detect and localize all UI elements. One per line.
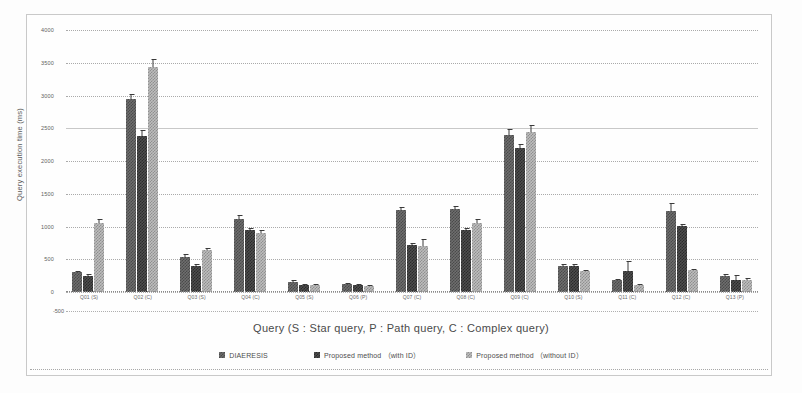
- bar-rect: [677, 226, 687, 292]
- bar-2: [731, 30, 741, 292]
- bar-rect: [504, 135, 514, 292]
- bar-rect: [558, 266, 568, 292]
- gridline-0: [66, 292, 758, 293]
- bar-2: [353, 30, 363, 292]
- legend-label: DIAERESIS: [229, 352, 268, 359]
- bar-group: [288, 30, 320, 292]
- error-bar: [423, 239, 424, 245]
- bar-rect: [720, 276, 730, 292]
- bar-1: [126, 30, 136, 292]
- bar-rect: [137, 136, 147, 292]
- bar-3: [310, 30, 320, 292]
- gridline-minus-500: [66, 311, 758, 312]
- bar-3: [472, 30, 482, 292]
- x-tick-label: Q13 (P): [718, 294, 752, 306]
- x-tick-label: Q07 (C): [395, 294, 429, 306]
- error-bar: [639, 284, 640, 285]
- error-bar: [520, 144, 521, 148]
- legend-swatch-icon: [314, 352, 320, 358]
- bar-1: [720, 30, 730, 292]
- bar-group: [72, 30, 104, 292]
- bar-group: [558, 30, 590, 292]
- bar-1: [504, 30, 514, 292]
- chart-legend: DIAERESISProposed method （with ID）Propos…: [0, 350, 802, 360]
- error-bar: [261, 230, 262, 233]
- bar-groups: [66, 30, 758, 292]
- bar-1: [72, 30, 82, 292]
- bar-3: [148, 30, 158, 292]
- bar-group: [342, 30, 374, 292]
- bar-rect: [202, 250, 212, 292]
- x-tick-label: Q09 (C): [503, 294, 537, 306]
- error-bar: [131, 94, 132, 99]
- error-bar: [304, 284, 305, 285]
- error-bar: [196, 264, 197, 266]
- bar-rect: [526, 132, 536, 292]
- bar-1: [180, 30, 190, 292]
- y-axis-title: Query execution time (ms): [15, 70, 24, 240]
- bar-1: [666, 30, 676, 292]
- bar-2: [245, 30, 255, 292]
- x-tick-label: Q04 (C): [233, 294, 267, 306]
- bar-group: [450, 30, 482, 292]
- bar-3: [94, 30, 104, 292]
- bar-rect: [180, 257, 190, 292]
- bar-rect: [191, 266, 201, 292]
- bar-1: [342, 30, 352, 292]
- error-bar: [207, 248, 208, 250]
- bar-3: [526, 30, 536, 292]
- error-bar: [88, 274, 89, 275]
- error-bar: [153, 59, 154, 67]
- legend-item: Proposed method （without ID）: [466, 350, 583, 360]
- y-tick-1500: 1500: [41, 191, 54, 197]
- bar-2: [461, 30, 471, 292]
- bar-rect: [623, 271, 633, 292]
- bar-group: [720, 30, 752, 292]
- error-bar: [455, 206, 456, 209]
- bar-3: [364, 30, 374, 292]
- error-bar: [747, 278, 748, 280]
- error-bar: [509, 129, 510, 135]
- error-bar: [315, 284, 316, 285]
- legend-label: Proposed method （without ID）: [476, 350, 583, 360]
- error-bar: [725, 274, 726, 276]
- bar-rect: [407, 245, 417, 292]
- y-tick-4000: 4000: [41, 27, 54, 33]
- bar-1: [396, 30, 406, 292]
- bar-rect: [396, 210, 406, 292]
- bar-rect: [580, 271, 590, 292]
- bar-rect: [666, 211, 676, 292]
- bar-rect: [245, 230, 255, 292]
- bar-rect: [72, 272, 82, 292]
- bar-rect: [569, 266, 579, 292]
- x-tick-label: Q05 (S): [287, 294, 321, 306]
- x-axis-line: [66, 291, 758, 292]
- error-bar: [401, 207, 402, 211]
- bar-2: [83, 30, 93, 292]
- bar-2: [299, 30, 309, 292]
- x-tick-label: Q10 (S): [556, 294, 590, 306]
- bar-rect: [83, 276, 93, 292]
- error-bar: [142, 130, 143, 136]
- bar-3: [202, 30, 212, 292]
- x-tick-label: Q02 (C): [126, 294, 160, 306]
- error-bar: [736, 275, 737, 281]
- bar-1: [612, 30, 622, 292]
- plot-area: 40003500300025002000150010005000: [66, 30, 758, 292]
- bar-2: [137, 30, 147, 292]
- bar-3: [580, 30, 590, 292]
- bar-rect: [234, 219, 244, 292]
- bar-3: [634, 30, 644, 292]
- error-bar: [563, 264, 564, 266]
- bar-3: [688, 30, 698, 292]
- bar-group: [234, 30, 266, 292]
- bar-group: [396, 30, 428, 292]
- error-bar: [250, 228, 251, 231]
- error-bar: [693, 269, 694, 271]
- y-tick-2000: 2000: [41, 158, 54, 164]
- y-tick-3500: 3500: [41, 60, 54, 66]
- bar-1: [234, 30, 244, 292]
- chart-figure: Query execution time (ms) 40003500300025…: [0, 0, 802, 393]
- error-bar: [628, 261, 629, 271]
- bar-rect: [472, 223, 482, 292]
